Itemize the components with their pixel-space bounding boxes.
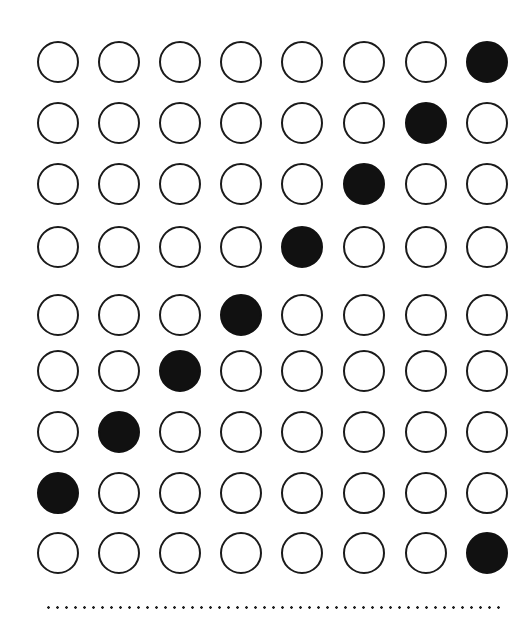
empty-circle [98, 350, 140, 392]
empty-circle [159, 532, 201, 574]
empty-circle [281, 411, 323, 453]
empty-circle [37, 102, 79, 144]
empty-circle [405, 226, 447, 268]
empty-circle [466, 102, 508, 144]
empty-circle [98, 102, 140, 144]
empty-circle [343, 294, 385, 336]
empty-circle [405, 163, 447, 205]
empty-circle [281, 163, 323, 205]
empty-circle [37, 350, 79, 392]
empty-circle [220, 472, 262, 514]
empty-circle [281, 294, 323, 336]
empty-circle [159, 472, 201, 514]
empty-circle [220, 226, 262, 268]
dot-grid-diagram [0, 0, 530, 628]
empty-circle [220, 163, 262, 205]
empty-circle [466, 226, 508, 268]
empty-circle [466, 294, 508, 336]
empty-circle [343, 41, 385, 83]
empty-circle [405, 294, 447, 336]
empty-circle [405, 532, 447, 574]
filled-circle [466, 41, 508, 83]
empty-circle [281, 41, 323, 83]
empty-circle [343, 532, 385, 574]
empty-circle [466, 472, 508, 514]
empty-circle [466, 411, 508, 453]
empty-circle [98, 226, 140, 268]
empty-circle [98, 472, 140, 514]
empty-circle [37, 41, 79, 83]
empty-circle [405, 411, 447, 453]
empty-circle [37, 532, 79, 574]
empty-circle [220, 532, 262, 574]
empty-circle [37, 163, 79, 205]
empty-circle [98, 163, 140, 205]
filled-circle [281, 226, 323, 268]
empty-circle [159, 102, 201, 144]
empty-circle [343, 102, 385, 144]
empty-circle [159, 226, 201, 268]
empty-circle [159, 163, 201, 205]
empty-circle [98, 294, 140, 336]
empty-circle [220, 102, 262, 144]
empty-circle [37, 411, 79, 453]
empty-circle [220, 41, 262, 83]
empty-circle [159, 41, 201, 83]
filled-circle [98, 411, 140, 453]
empty-circle [343, 226, 385, 268]
empty-circle [220, 411, 262, 453]
filled-circle [466, 532, 508, 574]
empty-circle [343, 350, 385, 392]
empty-circle [343, 411, 385, 453]
empty-circle [281, 472, 323, 514]
empty-circle [466, 163, 508, 205]
empty-circle [220, 350, 262, 392]
empty-circle [281, 350, 323, 392]
empty-circle [37, 226, 79, 268]
filled-circle [220, 294, 262, 336]
empty-circle [343, 472, 385, 514]
dotted-divider-line [44, 606, 506, 609]
empty-circle [159, 294, 201, 336]
filled-circle [405, 102, 447, 144]
empty-circle [159, 411, 201, 453]
filled-circle [343, 163, 385, 205]
empty-circle [281, 532, 323, 574]
empty-circle [37, 294, 79, 336]
empty-circle [405, 472, 447, 514]
empty-circle [405, 41, 447, 83]
filled-circle [159, 350, 201, 392]
empty-circle [98, 41, 140, 83]
empty-circle [405, 350, 447, 392]
empty-circle [98, 532, 140, 574]
empty-circle [466, 350, 508, 392]
empty-circle [281, 102, 323, 144]
filled-circle [37, 472, 79, 514]
